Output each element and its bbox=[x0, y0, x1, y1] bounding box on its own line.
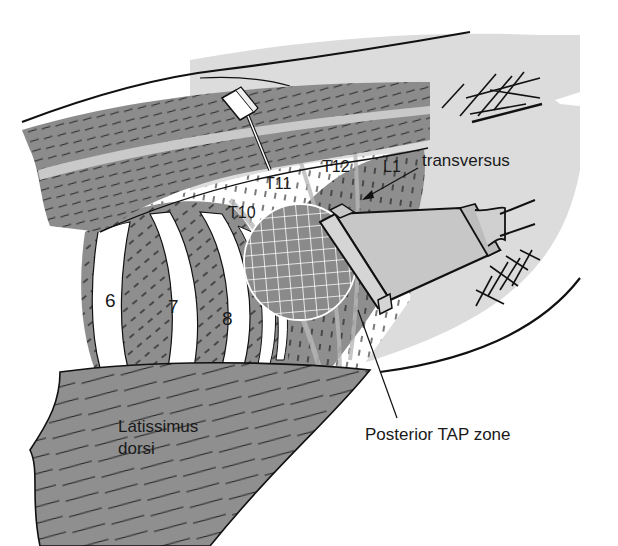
latissimus-label-line2: dorsi bbox=[118, 439, 155, 458]
rib-number-6: 6 bbox=[105, 290, 116, 311]
segment-label-t12: T12 bbox=[322, 158, 350, 175]
anatomy-illustration: T11 T12 L1 T10 6 7 8 transversus Posteri… bbox=[0, 0, 618, 546]
latissimus-dorsi-muscle bbox=[30, 363, 370, 546]
transversus-label: transversus bbox=[422, 151, 510, 170]
segment-label-t11: T11 bbox=[265, 175, 291, 192]
posterior-tap-zone-label: Posterior TAP zone bbox=[365, 425, 511, 444]
segment-label-l1: L1 bbox=[383, 158, 401, 175]
rib-number-8: 8 bbox=[222, 308, 233, 329]
segment-label-t10: T10 bbox=[228, 204, 256, 221]
anatomy-figure: T11 T12 L1 T10 6 7 8 transversus Posteri… bbox=[0, 0, 618, 546]
latissimus-label-line1: Latissimus bbox=[118, 417, 198, 436]
rib-number-7: 7 bbox=[168, 296, 179, 317]
